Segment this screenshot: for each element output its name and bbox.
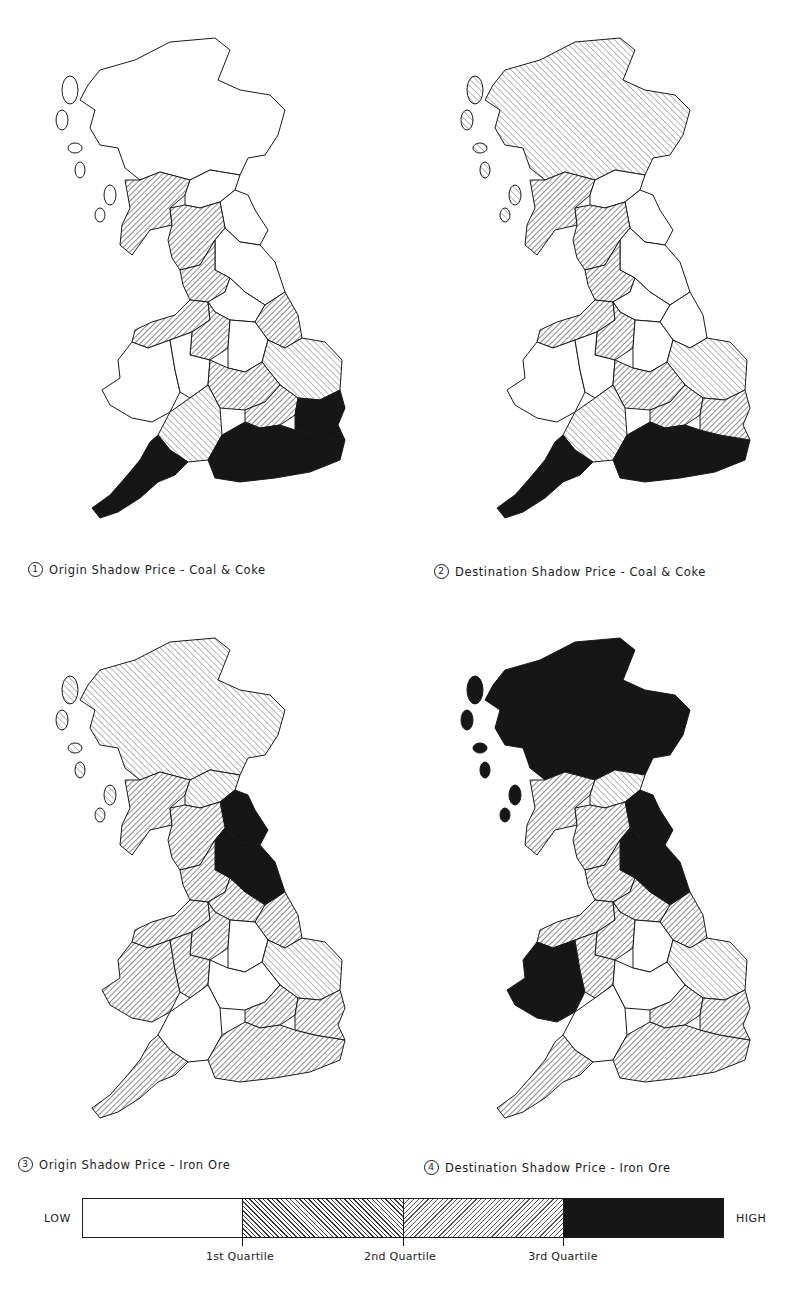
island bbox=[480, 162, 490, 178]
island bbox=[500, 208, 510, 222]
island bbox=[68, 743, 82, 753]
choropleth-map-3 bbox=[40, 630, 380, 1150]
legend-tick-label-3: 3rd Quartile bbox=[528, 1250, 598, 1263]
island bbox=[104, 785, 116, 805]
legend-bar bbox=[82, 1198, 724, 1238]
island bbox=[461, 710, 473, 730]
island bbox=[461, 110, 473, 130]
legend-low-label: LOW bbox=[44, 1212, 71, 1225]
region-wales bbox=[507, 340, 585, 422]
island bbox=[509, 785, 521, 805]
island bbox=[500, 808, 510, 822]
island bbox=[473, 743, 487, 753]
legend-tick-2 bbox=[403, 1238, 404, 1246]
island bbox=[467, 676, 483, 704]
panel-number-badge: 2 bbox=[434, 564, 449, 579]
island bbox=[56, 110, 68, 130]
legend-tick-label-2: 2nd Quartile bbox=[364, 1250, 436, 1263]
island bbox=[75, 762, 85, 778]
island bbox=[104, 185, 116, 205]
island bbox=[480, 762, 490, 778]
legend-swatch-second-quartile bbox=[242, 1199, 402, 1237]
map-caption-3: 3Origin Shadow Price - Iron Ore bbox=[18, 1157, 230, 1172]
legend-swatch-third-quartile bbox=[403, 1199, 563, 1237]
map-panel-4 bbox=[445, 630, 785, 1150]
island bbox=[62, 676, 78, 704]
island bbox=[467, 76, 483, 104]
island bbox=[62, 76, 78, 104]
region-highlands bbox=[80, 638, 285, 780]
island bbox=[75, 162, 85, 178]
map-caption-1: 1Origin Shadow Price - Coal & Coke bbox=[28, 562, 266, 577]
island bbox=[95, 208, 105, 222]
legend-high-label: HIGH bbox=[736, 1212, 766, 1225]
region-wales bbox=[102, 940, 180, 1022]
quartile-legend: LOW HIGH 1st Quartile 2nd Quartile 3rd Q… bbox=[0, 1190, 806, 1280]
island bbox=[473, 143, 487, 153]
island bbox=[95, 808, 105, 822]
panel-number-badge: 3 bbox=[18, 1157, 33, 1172]
legend-swatch-low bbox=[83, 1199, 242, 1237]
caption-text: Destination Shadow Price - Iron Ore bbox=[445, 1161, 671, 1175]
caption-text: Origin Shadow Price - Coal & Coke bbox=[49, 563, 266, 577]
region-highlands bbox=[485, 38, 690, 180]
island bbox=[68, 143, 82, 153]
legend-swatch-high bbox=[563, 1199, 723, 1237]
legend-tick-label-1: 1st Quartile bbox=[206, 1250, 274, 1263]
caption-text: Destination Shadow Price - Coal & Coke bbox=[455, 565, 706, 579]
caption-text: Origin Shadow Price - Iron Ore bbox=[39, 1158, 230, 1172]
island bbox=[56, 710, 68, 730]
panel-number-badge: 1 bbox=[28, 562, 43, 577]
region-wales bbox=[102, 340, 180, 422]
legend-tick-1 bbox=[242, 1238, 243, 1246]
region-highlands bbox=[80, 38, 285, 180]
map-panel-1 bbox=[40, 30, 380, 550]
choropleth-map-4 bbox=[445, 630, 785, 1150]
island bbox=[509, 185, 521, 205]
choropleth-map-2 bbox=[445, 30, 785, 550]
choropleth-map-1 bbox=[40, 30, 380, 550]
panel-number-badge: 4 bbox=[424, 1160, 439, 1175]
map-panel-2 bbox=[445, 30, 785, 550]
legend-tick-3 bbox=[563, 1238, 564, 1246]
map-panel-3 bbox=[40, 630, 380, 1150]
map-caption-2: 2Destination Shadow Price - Coal & Coke bbox=[434, 564, 706, 579]
region-highlands bbox=[485, 638, 690, 780]
map-caption-4: 4Destination Shadow Price - Iron Ore bbox=[424, 1160, 671, 1175]
region-wales bbox=[507, 940, 585, 1022]
